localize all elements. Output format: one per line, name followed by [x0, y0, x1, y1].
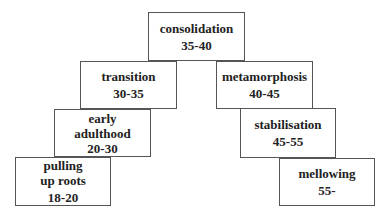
stage-label: metamorphosis	[222, 69, 307, 84]
life-stages-diagram: pulling up roots 18-20 early adulthood 2…	[0, 0, 389, 218]
stage-box-stabilisation: stabilisation 45-55	[240, 108, 336, 158]
stage-box-consolidation: consolidation 35-40	[148, 12, 245, 61]
stage-box-early-adulthood: early adulthood 20-30	[54, 109, 151, 157]
stage-age-range: 40-45	[249, 86, 279, 101]
stage-label: transition	[101, 69, 155, 84]
stage-box-mellowing: mellowing 55-	[279, 158, 375, 206]
stage-age-range: 18-20	[48, 190, 78, 205]
stage-age-range: 20-30	[87, 141, 117, 156]
stage-label: stabilisation	[254, 117, 321, 132]
stage-label: early adulthood	[74, 111, 130, 141]
stage-age-range: 35-40	[181, 38, 211, 53]
stage-box-metamorphosis: metamorphosis 40-45	[216, 61, 313, 109]
stage-age-range: 55-	[318, 183, 335, 198]
stage-label: pulling up roots	[40, 158, 86, 188]
stage-box-transition: transition 30-35	[80, 61, 177, 109]
stage-age-range: 45-55	[273, 134, 303, 149]
stage-age-range: 30-35	[113, 86, 143, 101]
stage-label: consolidation	[160, 21, 234, 36]
stage-box-pulling-up-roots: pulling up roots 18-20	[15, 157, 111, 206]
stage-label: mellowing	[298, 166, 355, 181]
